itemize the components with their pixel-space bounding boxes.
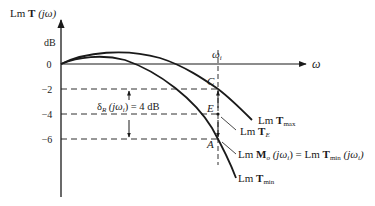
point-a-label: A [206, 138, 214, 150]
point-e-dot [216, 112, 219, 115]
label-t-e: Lm TE [240, 125, 270, 139]
point-e-label: E [206, 102, 214, 114]
omega-i-label: ωi [212, 48, 222, 62]
label-m-o-equation: Lm Mo (jωi) = Lm Tmin (jωi) [238, 148, 364, 162]
x-axis-label: ω [312, 57, 320, 71]
tick-0: 0 [47, 59, 52, 70]
point-c-label: C [207, 75, 215, 87]
tick-minus-6: −6 [42, 134, 53, 145]
y-axis-unit: dB [44, 37, 56, 48]
y-axis-label: Lm T (jω) [10, 7, 57, 20]
x-axis: ω [61, 57, 320, 71]
bode-tolerance-diagram: Lm T (jω) dB 0 −2 −4 −6 ω ωi C E A [0, 0, 375, 206]
tick-minus-2: −2 [42, 84, 53, 95]
delta-r-label: δR (jωi) = 4 dB [97, 101, 159, 114]
curve-labels: Lm Tmax Lm TE Lm Mo (jωi) = Lm Tmin (jωi… [238, 114, 364, 186]
y-axis: Lm T (jω) dB 0 −2 −4 −6 [10, 7, 61, 197]
label-t-min: Lm Tmin [238, 172, 275, 186]
curves [61, 52, 252, 178]
tick-minus-4: −4 [42, 109, 53, 120]
reference-lines [61, 89, 218, 139]
